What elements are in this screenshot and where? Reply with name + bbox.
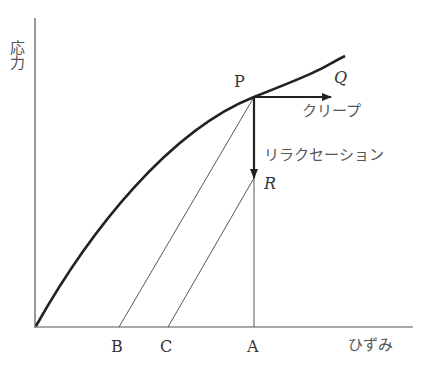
point-Q-label: Q <box>334 70 347 86</box>
x-axis-label: ひずみ <box>348 338 393 353</box>
point-B-label: B <box>111 339 123 355</box>
stress-strain-diagram <box>0 0 430 371</box>
point-C-label: C <box>160 339 172 355</box>
point-P-label: P <box>234 74 245 90</box>
point-R-label: R <box>264 176 276 192</box>
relaxation-label: リラクセーション <box>264 148 384 163</box>
y-axis-label: 応力 <box>8 40 23 70</box>
point-A-label: A <box>247 339 259 355</box>
unloading-line-PB <box>119 97 254 327</box>
unloading-line-RC <box>168 178 254 327</box>
creep-label: クリープ <box>302 104 361 119</box>
